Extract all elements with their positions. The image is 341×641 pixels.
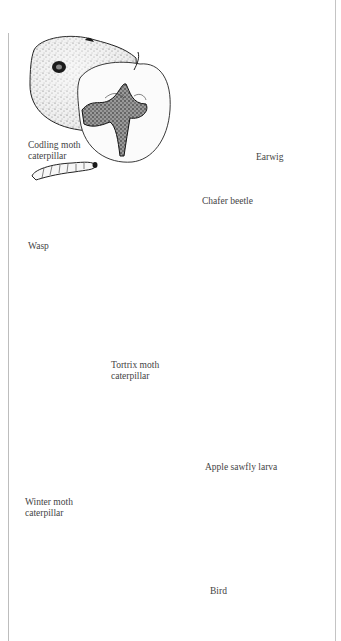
label-winter-moth: Winter moth caterpillar bbox=[25, 497, 73, 518]
label-earwig: Earwig bbox=[256, 152, 283, 163]
label-tortrix-moth: Tortrix moth caterpillar bbox=[111, 360, 159, 381]
label-wasp: Wasp bbox=[28, 241, 49, 252]
label-codling-moth: Codling moth caterpillar bbox=[28, 140, 81, 161]
illustration-canvas bbox=[0, 0, 341, 641]
label-chafer-beetle: Chafer beetle bbox=[202, 196, 253, 207]
label-apple-sawfly: Apple sawfly larva bbox=[205, 462, 277, 473]
label-bird: Bird bbox=[210, 586, 227, 597]
